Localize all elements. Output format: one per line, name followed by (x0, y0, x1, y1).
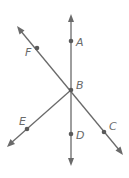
label-C: C (109, 120, 117, 133)
arrowhead-up-icon (68, 14, 74, 22)
point-A (69, 39, 74, 44)
label-A: A (75, 36, 84, 49)
label-E: E (19, 115, 26, 128)
label-F: F (25, 46, 32, 59)
point-C (102, 130, 107, 135)
point-B (69, 88, 74, 93)
point-F (35, 46, 40, 51)
arrowhead-down-icon (68, 158, 74, 166)
label-B: B (76, 79, 84, 92)
point-D (69, 132, 74, 137)
label-D: D (76, 129, 84, 142)
geometry-diagram: A B C D E F (0, 0, 129, 178)
